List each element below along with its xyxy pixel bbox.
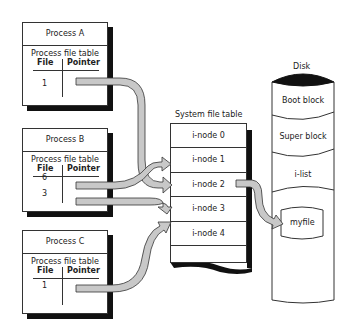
arrow-c1-to-inode xyxy=(76,222,171,292)
arrow-b3-to-inode3 xyxy=(76,198,172,214)
arrow-a1-to-inode2 xyxy=(76,78,172,193)
arrow-inode2-to-myfile xyxy=(236,180,283,229)
arrows-layer xyxy=(0,0,348,335)
